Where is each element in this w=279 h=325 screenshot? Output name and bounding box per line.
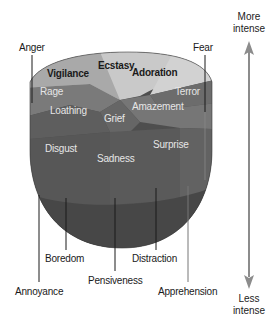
segment-surprise: Surprise [153, 139, 189, 150]
label-boredom: Boredom [45, 253, 84, 264]
label-anger: Anger [19, 42, 45, 53]
label-annoyance: Annoyance [15, 286, 63, 297]
segment-adoration: Adoration [132, 67, 177, 78]
segment-ecstasy: Ecstasy [98, 60, 134, 71]
label-less-intense: Less intense [229, 293, 269, 317]
intensity-arrow [244, 41, 254, 289]
label-pensiveness: Pensiveness [88, 275, 143, 286]
label-distraction: Distraction [132, 253, 177, 264]
segment-terror: Terror [175, 86, 200, 97]
segment-grief: Grief [104, 113, 125, 124]
segment-loathing: Loathing [50, 105, 87, 116]
segment-vigilance: Vigilance [47, 68, 89, 79]
segment-sadness: Sadness [97, 153, 135, 164]
segment-disgust: Disgust [45, 143, 77, 154]
emotion-cone-diagram: Anger Fear Annoyance Boredom Pensiveness… [0, 0, 279, 325]
label-apprehension: Apprehension [158, 286, 217, 297]
label-more-intense: More intense [229, 11, 269, 35]
label-fear: Fear [193, 42, 213, 53]
segment-amazement: Amazement [132, 101, 184, 112]
segment-rage: Rage [40, 86, 63, 97]
